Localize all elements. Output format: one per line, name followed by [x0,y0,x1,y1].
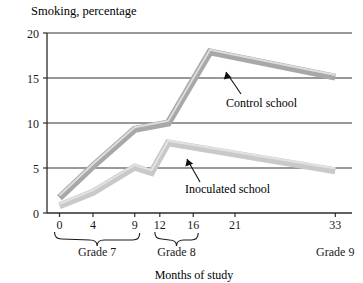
y-tick-label-0: 0 [33,207,39,221]
x-tick-label-9: 9 [132,218,138,232]
bracket-label-grade-7: Grade 7 [78,245,116,259]
control-school-label: Control school [226,96,298,110]
x-tick-label-16: 16 [187,218,199,232]
y-tick-label-10: 10 [27,117,39,131]
bracket-label-grade-9: Grade 9 [316,245,354,259]
x-tick-label-21: 21 [229,218,241,232]
inoculated-school-label: Inoculated school [185,182,271,196]
x-axis-label: Months of study [155,268,234,282]
y-tick-label-5: 5 [33,162,39,176]
y-tick-label-15: 15 [27,72,39,86]
x-tick-label-12: 12 [154,218,166,232]
x-tick-label-0: 0 [57,218,63,232]
bracket-label-grade-8: Grade 8 [157,245,195,259]
chart-figure: Smoking, percentage 05101520 04912162133… [0,0,363,283]
x-tick-label-4: 4 [90,218,96,232]
x-tick-label-33: 33 [329,218,341,232]
chart-title: Smoking, percentage [31,4,137,18]
smoking-percentage-line-chart: Smoking, percentage 05101520 04912162133… [0,0,363,283]
y-tick-label-20: 20 [27,27,39,41]
